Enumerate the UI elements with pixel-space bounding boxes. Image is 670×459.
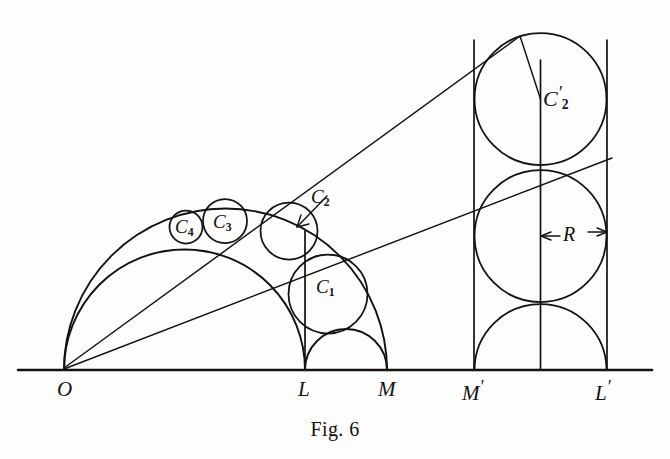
circle-label-C2-prime: C′2 [543, 84, 569, 110]
figure-caption: Fig. 6 [0, 418, 670, 441]
circle-label-C4: C4 [175, 217, 194, 236]
circle-label-C1: C1 [316, 277, 335, 296]
circle-label-C3: C3 [213, 212, 232, 231]
axis-label-M-prime: M′ [462, 379, 483, 404]
axis-label-L-prime: L′ [595, 379, 611, 404]
circle-label-C2: C2 [311, 187, 330, 206]
ray-O-to-C2-prime-center [64, 158, 612, 369]
ray-O-to-C2-prime-top [64, 36, 520, 368]
axis-label-L: L [298, 379, 310, 400]
figure-container: O L M M′ L′ C1 C2 C3 C4 C′2 R Fig. 6 [0, 0, 670, 459]
dimension-label-R: R [563, 224, 575, 244]
radius-segment-C2-prime [520, 36, 541, 99]
axis-label-M: M [378, 379, 396, 400]
axis-label-O: O [57, 379, 72, 400]
semicircle-LM [305, 329, 387, 370]
